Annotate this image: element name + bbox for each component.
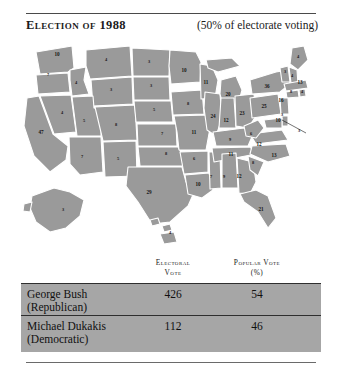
state-vote-wa: 10 bbox=[54, 51, 60, 57]
electoral-map: 1074744435875335782910811610112472012911… bbox=[10, 36, 334, 250]
popular-vote-value: 46 bbox=[217, 320, 297, 332]
electoral-vote-value: 112 bbox=[141, 320, 205, 332]
column-header-popular: Popular Vote (%) bbox=[217, 258, 297, 278]
turnout-note: (50% of electorate voting) bbox=[197, 19, 318, 31]
state-vote-md: 10 bbox=[275, 117, 281, 123]
state-vote-ga: 12 bbox=[236, 173, 242, 179]
popular-line1: Popular Vote bbox=[234, 258, 280, 267]
popular-vote-value: 54 bbox=[217, 288, 297, 300]
state-vote-ma: 13 bbox=[297, 79, 303, 85]
page-title: Election of 1988 bbox=[26, 18, 126, 33]
candidate-party: (Democratic) bbox=[27, 333, 157, 346]
state-vote-ca: 47 bbox=[38, 129, 44, 135]
top-divider bbox=[26, 13, 316, 14]
electoral-vote-value: 426 bbox=[141, 288, 205, 300]
column-header-electoral: Electoral Vote bbox=[141, 258, 205, 278]
table-row: Michael Dukakis (Democratic) 112 46 bbox=[21, 315, 321, 352]
state-vote-tn: 11 bbox=[229, 151, 234, 157]
electoral-line1: Electoral bbox=[156, 258, 191, 267]
state-vote-fl: 21 bbox=[258, 206, 264, 212]
candidate-party: (Republican) bbox=[27, 301, 157, 314]
state-shapes bbox=[23, 46, 308, 244]
state-vote-la: 10 bbox=[195, 181, 201, 187]
state-vote-nj: 16 bbox=[278, 97, 284, 103]
candidate-name: Michael Dukakis bbox=[27, 320, 106, 332]
electoral-line2: Vote bbox=[165, 268, 182, 277]
us-map-svg: 1074744435875335782910811610112472012911… bbox=[10, 36, 334, 250]
state-vote-in: 12 bbox=[223, 117, 229, 123]
state-vote-va: 12 bbox=[256, 141, 262, 147]
state-vote-mi: 20 bbox=[225, 91, 231, 97]
popular-line2: (%) bbox=[251, 268, 263, 277]
state-vote-pa: 25 bbox=[261, 103, 267, 109]
state-vote-oh: 23 bbox=[239, 110, 245, 116]
state-vote-nc: 13 bbox=[271, 152, 277, 158]
bottom-divider bbox=[26, 362, 316, 363]
candidate-name-cell: Michael Dukakis (Democratic) bbox=[27, 320, 157, 347]
results-table: Electoral Vote Popular Vote (%) George B… bbox=[21, 256, 321, 356]
state-vote-ny: 36 bbox=[264, 83, 270, 89]
state-vote-mo: 11 bbox=[192, 129, 197, 135]
state-vote-wi: 11 bbox=[204, 79, 209, 85]
candidate-name-cell: George Bush (Republican) bbox=[27, 288, 157, 315]
table-header-row: Electoral Vote Popular Vote (%) bbox=[21, 256, 321, 282]
candidate-name: George Bush bbox=[27, 288, 87, 300]
state-vote-mn: 10 bbox=[181, 67, 187, 73]
table-row: George Bush (Republican) 426 54 bbox=[21, 283, 321, 316]
election-figure: Election of 1988 (50% of electorate voti… bbox=[0, 0, 342, 374]
state-vote-il: 24 bbox=[210, 113, 216, 119]
figure-header: Election of 1988 (50% of electorate voti… bbox=[26, 18, 318, 34]
state-vote-tx: 29 bbox=[146, 189, 152, 195]
